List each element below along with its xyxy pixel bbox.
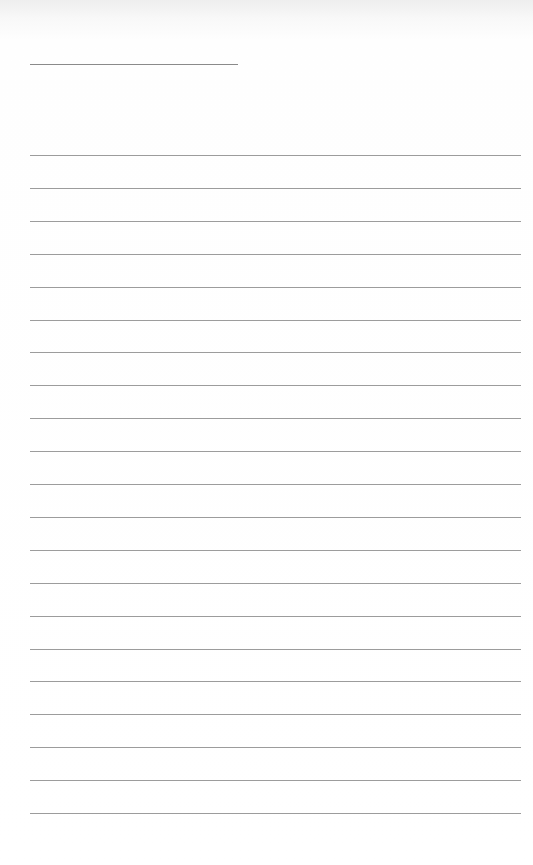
ruled-line (30, 155, 521, 156)
ruled-line (30, 221, 521, 222)
lined-paper-sheet (0, 0, 533, 865)
ruled-line (30, 287, 521, 288)
ruled-line (30, 550, 521, 551)
ruled-line (30, 451, 521, 452)
ruled-line (30, 681, 521, 682)
title-underline (30, 64, 238, 65)
ruled-line (30, 352, 521, 353)
ruled-line (30, 714, 521, 715)
ruled-line (30, 385, 521, 386)
ruled-line (30, 616, 521, 617)
ruled-line (30, 517, 521, 518)
ruled-line (30, 649, 521, 650)
ruled-line (30, 188, 521, 189)
ruled-line (30, 484, 521, 485)
ruled-line (30, 583, 521, 584)
ruled-line (30, 747, 521, 748)
ruled-line (30, 813, 521, 814)
ruled-line (30, 320, 521, 321)
ruled-line (30, 254, 521, 255)
ruled-line (30, 780, 521, 781)
ruled-line (30, 418, 521, 419)
